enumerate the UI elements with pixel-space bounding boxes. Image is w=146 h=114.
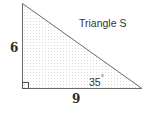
side-label-bottom: 9 xyxy=(72,93,80,105)
diagram-title: Triangle S xyxy=(79,18,126,29)
side-label-left: 6 xyxy=(10,42,18,54)
angle-value: 35 xyxy=(89,76,101,88)
degree-symbol: ° xyxy=(101,73,104,82)
angle-label: 35° xyxy=(89,75,104,87)
